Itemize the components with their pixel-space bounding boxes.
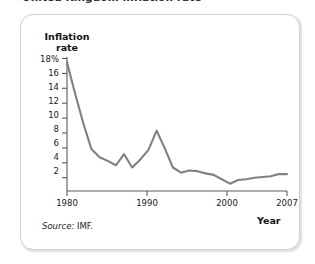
source-value: IMF.	[77, 221, 93, 231]
source-label: Source:	[42, 221, 74, 231]
clipped-figure-title: United Kingdom inflation rate	[0, 0, 315, 11]
inflation-rate-line	[67, 62, 287, 184]
x-axis-ticks	[67, 191, 287, 196]
clipped-figure-title-label: United Kingdom inflation rate	[22, 0, 202, 3]
source-note: Source: IMF.	[42, 221, 93, 231]
line-chart-plot	[21, 15, 301, 251]
clipped-figure-title-text: United Kingdom inflation rate	[22, 0, 202, 3]
y-axis-ticks	[62, 59, 67, 178]
figure-card: Inflation rate Year 18% 16 14 12 10 8 6 …	[20, 14, 300, 250]
